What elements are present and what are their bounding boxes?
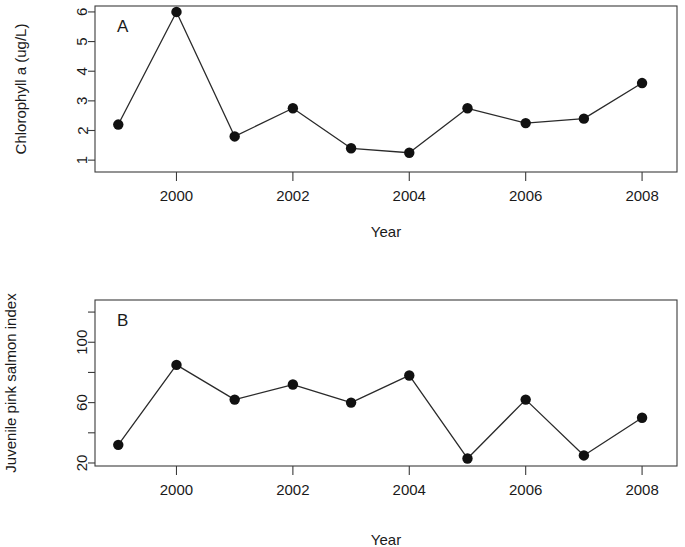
data-point[interactable] <box>171 360 181 370</box>
plot-frame <box>95 6 677 172</box>
plot-frame <box>95 300 677 466</box>
data-point[interactable] <box>520 118 530 128</box>
data-point[interactable] <box>229 131 239 141</box>
y-tick-label: 6 <box>74 8 91 16</box>
data-point[interactable] <box>171 7 181 17</box>
x-tick-label: 2006 <box>509 187 542 204</box>
data-point[interactable] <box>520 394 530 404</box>
y-tick-label: 20 <box>74 455 91 472</box>
panel-a-chlorophyll: 12345620002002200420062008AYearChlorophy… <box>0 0 685 262</box>
data-point[interactable] <box>113 119 123 129</box>
x-axis-title: Year <box>371 531 401 547</box>
data-point[interactable] <box>462 453 472 463</box>
y-tick-label: 4 <box>74 67 91 75</box>
panel-tag: B <box>117 311 128 330</box>
panel-tag: A <box>117 17 129 36</box>
panel-b-plot: 206010020002002200420062008BYearJuvenile… <box>0 282 685 547</box>
x-tick-label: 2008 <box>625 187 658 204</box>
data-point[interactable] <box>579 113 589 123</box>
data-point[interactable] <box>229 394 239 404</box>
x-tick-label: 2000 <box>160 187 193 204</box>
panel-a-plot: 12345620002002200420062008AYearChlorophy… <box>0 0 685 262</box>
data-point[interactable] <box>404 148 414 158</box>
y-tick-label: 5 <box>74 37 91 45</box>
panel-b-salmon: 206010020002002200420062008BYearJuvenile… <box>0 282 685 547</box>
x-tick-label: 2002 <box>276 187 309 204</box>
data-point[interactable] <box>288 379 298 389</box>
y-tick-label: 100 <box>74 330 91 355</box>
data-point[interactable] <box>404 370 414 380</box>
x-axis-title: Year <box>371 223 401 240</box>
data-point[interactable] <box>637 78 647 88</box>
data-point[interactable] <box>462 103 472 113</box>
x-tick-label: 2008 <box>625 481 658 498</box>
x-tick-label: 2000 <box>160 481 193 498</box>
x-tick-label: 2006 <box>509 481 542 498</box>
y-tick-label: 2 <box>74 126 91 134</box>
data-point[interactable] <box>579 450 589 460</box>
y-axis-title: Chlorophyll a (ug/L) <box>12 24 29 155</box>
data-point[interactable] <box>346 143 356 153</box>
figure-two-panel-timeseries: 12345620002002200420062008AYearChlorophy… <box>0 0 685 547</box>
y-axis-title: Juvenile pink salmon index <box>2 293 19 473</box>
data-point[interactable] <box>113 440 123 450</box>
y-tick-label: 3 <box>74 97 91 105</box>
y-tick-label: 1 <box>74 156 91 164</box>
data-point[interactable] <box>288 103 298 113</box>
x-tick-label: 2004 <box>393 481 426 498</box>
x-tick-label: 2004 <box>393 187 426 204</box>
y-tick-label: 60 <box>74 394 91 411</box>
x-tick-label: 2002 <box>276 481 309 498</box>
data-point[interactable] <box>346 397 356 407</box>
data-point[interactable] <box>637 413 647 423</box>
